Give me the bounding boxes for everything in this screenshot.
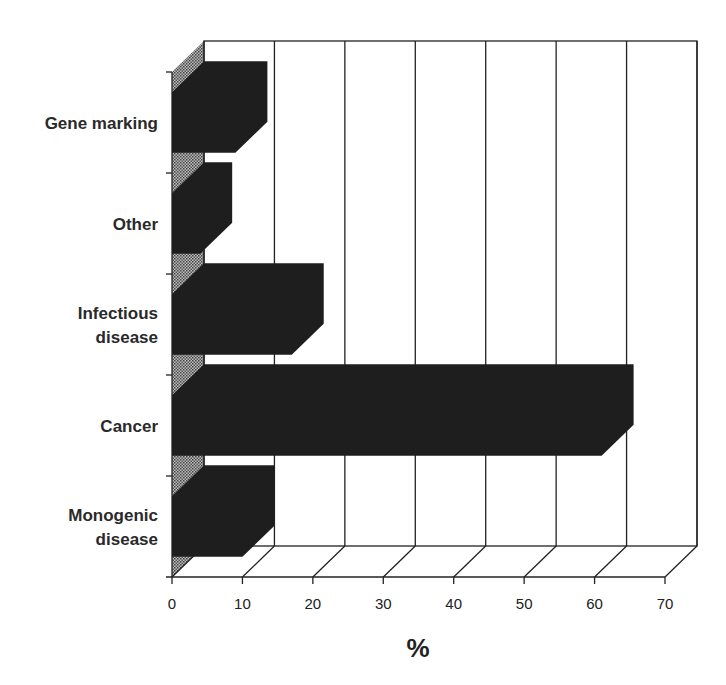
x-tick-label: 0 [168,595,176,612]
bars [172,61,634,557]
x-tick-label: 70 [657,595,674,612]
category-label: disease [96,530,158,549]
category-label: Infectious [78,304,158,323]
category-label: disease [96,328,158,347]
x-tick-label: 60 [586,595,603,612]
category-labels: Gene markingOtherInfectiousdiseaseCancer… [45,114,159,549]
x-tick-label: 30 [375,595,392,612]
bar-chart: Gene markingOtherInfectiousdiseaseCancer… [0,0,726,685]
category-label: Other [113,215,159,234]
x-tick-label: 20 [305,595,322,612]
category-label: Monogenic [68,506,158,525]
category-label: Cancer [100,417,158,436]
x-tick-label: 10 [234,595,251,612]
x-tick-label: 40 [445,595,462,612]
bar [172,263,324,355]
bar [172,364,634,456]
category-label: Gene marking [45,114,158,133]
x-tick-label: 50 [516,595,533,612]
x-tick-labels: 010203040506070 [168,595,674,612]
x-axis-label: % [406,633,429,663]
